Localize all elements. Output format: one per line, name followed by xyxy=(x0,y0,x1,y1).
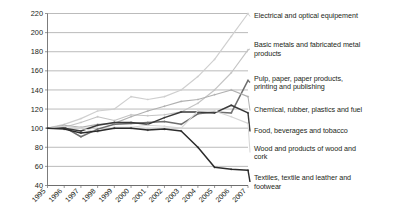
x-tick-label: 1998 xyxy=(80,187,98,205)
x-tick-label: 2005 xyxy=(197,187,215,205)
legend-leader-lines xyxy=(248,14,250,183)
y-tick-label: 100 xyxy=(31,124,43,133)
chart-canvas: 406080100120140160180200220 199519961997… xyxy=(0,0,396,224)
x-tick-label: 2000 xyxy=(113,187,131,205)
y-tick-label: 80 xyxy=(35,143,43,152)
x-axis-tick-labels: 1995199619971998199920002001200220032004… xyxy=(30,186,248,205)
y-tick-label: 220 xyxy=(31,9,43,18)
x-tick-label: 1995 xyxy=(30,187,48,205)
legend-leader-line xyxy=(248,14,250,17)
y-tick-label: 60 xyxy=(35,162,43,171)
x-tick-label: 1996 xyxy=(46,187,64,205)
y-tick-label: 180 xyxy=(31,47,43,56)
legend-leader-line xyxy=(248,80,250,82)
y-tick-label: 120 xyxy=(31,105,43,114)
y-tick-label: 160 xyxy=(31,66,43,75)
x-tick-label: 2004 xyxy=(180,187,198,205)
series-marker xyxy=(147,115,149,117)
x-tick-label: 1997 xyxy=(63,187,81,205)
legend-leader-line xyxy=(248,49,250,50)
series-marker xyxy=(147,98,149,100)
x-tick-label: 2007 xyxy=(230,187,248,205)
series-marker xyxy=(163,125,165,127)
legend-leader-line xyxy=(248,170,250,182)
legend-leader-line xyxy=(248,97,250,111)
x-tick-label: 2006 xyxy=(214,187,232,205)
series-marker xyxy=(163,114,165,116)
x-tick-label: 2003 xyxy=(163,187,181,205)
y-tick-label: 140 xyxy=(31,86,43,95)
y-axis-tick-labels: 406080100120140160180200220 xyxy=(31,9,43,190)
x-tick-label: 2001 xyxy=(130,187,148,205)
y-tick-label: 200 xyxy=(31,28,43,37)
line-chart: 406080100120140160180200220 199519961997… xyxy=(0,0,396,224)
x-tick-label: 2002 xyxy=(147,187,165,205)
x-tick-label: 1999 xyxy=(97,187,115,205)
